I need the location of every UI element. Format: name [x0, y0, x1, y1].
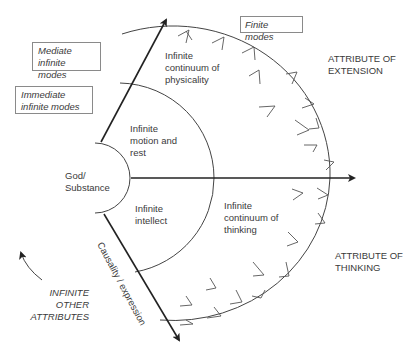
- finite-modes-box: Finite modes: [240, 16, 303, 33]
- continuum-physicality-label: Infinite continuum of physicality: [165, 50, 219, 86]
- mediate-infinite-modes-box: Mediate infinite modes: [32, 42, 101, 71]
- infinite-intellect-label: Infinite intellect: [135, 203, 167, 227]
- attribute-extension-label: ATTRIBUTE OF EXTENSION: [328, 53, 396, 77]
- god-substance-label: God/ Substance: [65, 170, 110, 194]
- attribute-thinking-label: ATTRIBUTE OF THINKING: [335, 250, 403, 274]
- other-attributes-label: INFINITE OTHER ATTRIBUTES: [19, 287, 89, 323]
- other-attributes-arrow: [21, 253, 42, 280]
- immediate-infinite-modes-box: Immediate infinite modes: [15, 86, 93, 114]
- continuum-thinking-label: Infinite continuum of thinking: [224, 200, 278, 236]
- infinite-motion-rest-label: Infinite motion and rest: [130, 123, 177, 159]
- mediate-modes-arc: [122, 26, 330, 321]
